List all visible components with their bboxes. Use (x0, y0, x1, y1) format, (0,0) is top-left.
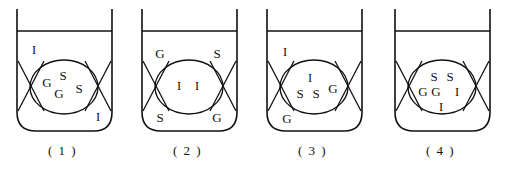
inside-label: S (446, 69, 453, 84)
inside-label: G (54, 86, 63, 101)
panel-caption: ( 3 ) (250, 143, 375, 159)
outside-label: I (96, 110, 100, 124)
panel-3: I S S G I G ( 3 ) (250, 0, 375, 175)
inside-label: I (455, 85, 459, 99)
inside-label: S (312, 86, 319, 101)
inside-label: I (195, 79, 199, 93)
panel-3-drawing: I S S G I G (250, 0, 375, 145)
panel-2-drawing: I I G S S G (125, 0, 250, 145)
inside-label: G (328, 81, 337, 96)
outside-label: I (283, 45, 287, 59)
inside-label: G (431, 84, 440, 99)
panel-2: I I G S S G ( 2 ) (125, 0, 250, 175)
panel-caption: ( 1 ) (0, 143, 125, 159)
inside-label: G (42, 75, 51, 90)
outside-label: G (155, 46, 164, 61)
inside-label: I (439, 100, 443, 114)
inside-label: I (177, 79, 181, 93)
inside-label: S (59, 68, 66, 83)
outside-label: I (32, 43, 36, 57)
outside-label: S (156, 110, 163, 125)
panel-caption: ( 2 ) (125, 143, 250, 159)
outside-label: G (212, 110, 221, 125)
panel-1: G S G S I I ( 1 ) (0, 0, 125, 175)
container-outline (267, 9, 362, 131)
panel-4: S S G G I I ( 4 ) (378, 0, 503, 175)
inside-label: S (296, 86, 303, 101)
panel-4-drawing: S S G G I I (378, 0, 503, 145)
outside-label: G (282, 111, 291, 126)
inside-label: G (418, 84, 427, 99)
inside-label: S (430, 69, 437, 84)
outside-label: S (213, 46, 220, 61)
panel-caption: ( 4 ) (378, 143, 503, 159)
inside-label: I (308, 71, 312, 85)
panel-1-drawing: G S G S I I (0, 0, 125, 145)
inside-label: S (75, 81, 82, 96)
figure-container: G S G S I I ( 1 ) I I G S S G ( 2 ) (0, 0, 510, 175)
